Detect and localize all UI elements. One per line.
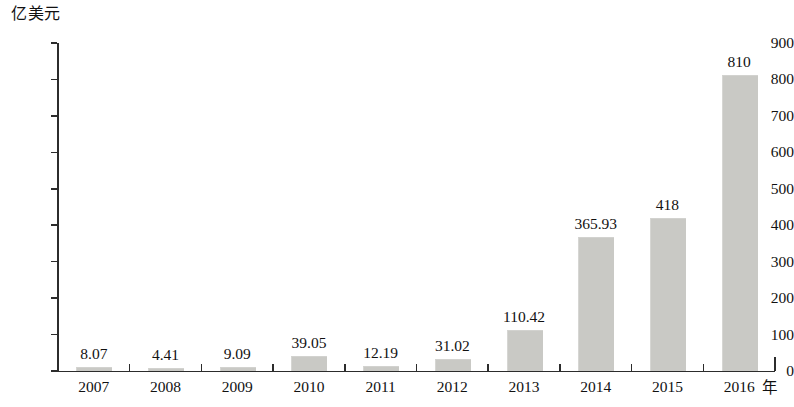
bar-value-label: 810 [694,54,784,70]
bar-value-label: 418 [622,197,712,213]
bar-chart: 亿美元 0100200300400500600700800900 2007200… [0,0,794,407]
y-axis-tick [51,370,57,372]
bar [148,368,184,371]
y-axis-tick [51,188,57,190]
x-axis-tick-label: 2015 [632,378,702,396]
y-axis-tick [51,42,57,44]
bar-value-label: 365.93 [551,216,641,232]
x-axis-tick-label: 2014 [561,378,631,396]
bar-value-label: 31.02 [407,338,497,354]
x-axis-tick [129,364,131,371]
x-axis-tick [201,364,203,371]
bar [220,367,256,371]
x-axis-tick [416,364,418,371]
y-axis-unit-label: 亿美元 [11,4,61,24]
bar [722,75,758,371]
x-axis-tick-label: 2013 [489,378,559,396]
y-axis-tick [51,297,57,299]
y-axis-tick [51,152,57,154]
y-axis-tick [51,224,57,226]
x-axis-tick-label: 2011 [346,378,416,396]
x-axis-tick [559,364,561,371]
x-axis-tick [272,364,274,371]
x-axis-unit-label: 年 [762,379,778,397]
x-axis-tick-label: 2009 [202,378,272,396]
y-axis-tick [51,79,57,81]
x-axis-tick [631,364,633,371]
x-axis-tick-label: 2007 [59,378,129,396]
y-axis-tick [51,115,57,117]
bar [435,359,471,371]
bar [291,356,327,371]
y-axis-tick [51,261,57,263]
x-axis-tick-label: 2010 [274,378,344,396]
x-axis-tick-label: 2012 [417,378,487,396]
bar [507,330,543,371]
bar [76,367,112,371]
bar [363,366,399,371]
x-axis-tick [344,364,346,371]
bar-value-label: 110.42 [479,309,569,325]
y-axis-tick [51,334,57,336]
x-axis-tick [487,364,489,371]
bar [650,218,686,371]
x-axis-tick-label: 2008 [131,378,201,396]
x-axis-tick [703,364,705,371]
bar [578,237,614,371]
